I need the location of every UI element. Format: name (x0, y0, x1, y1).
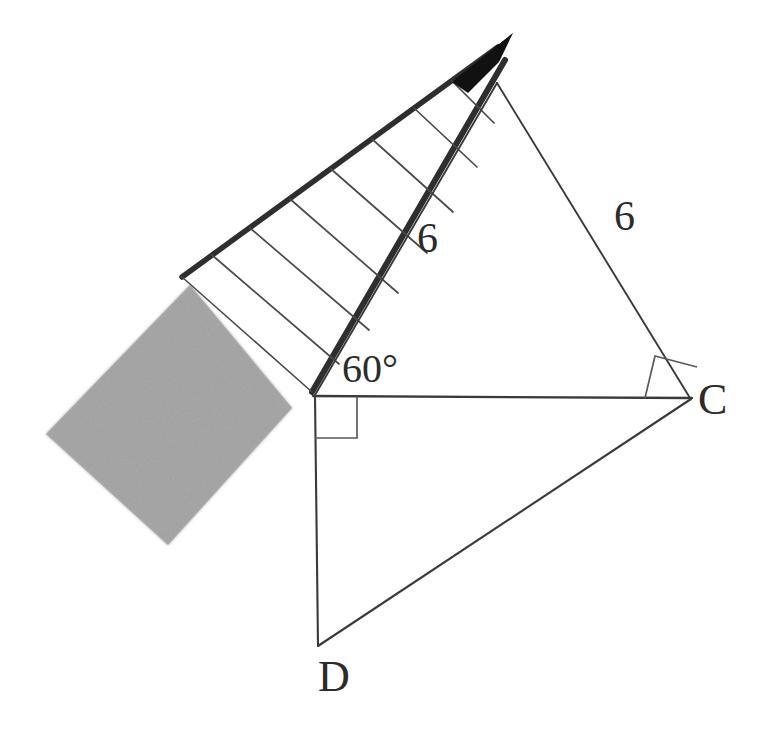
angle-label-60: 60° (342, 349, 398, 389)
right-angle-marker-c (645, 356, 697, 398)
segment-AC (497, 83, 690, 398)
segment-BD (315, 396, 318, 646)
segment-BC (313, 396, 692, 398)
vertex-label-d: D (318, 655, 350, 699)
geometry-figure: C D 6 6 60° (0, 0, 764, 732)
segment-CD (318, 399, 691, 646)
vertex-label-c: C (698, 378, 727, 422)
side-length-label-ac: 6 (614, 195, 635, 237)
side-length-label-ab: 6 (417, 217, 438, 259)
right-angle-marker-b (315, 397, 357, 438)
